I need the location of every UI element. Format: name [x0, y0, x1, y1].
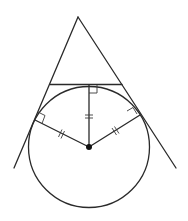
radius-right — [89, 115, 140, 147]
left-tangent-line — [14, 17, 78, 168]
center-point — [86, 144, 92, 150]
radius-left — [35, 120, 89, 147]
geometry-diagram — [0, 0, 188, 221]
